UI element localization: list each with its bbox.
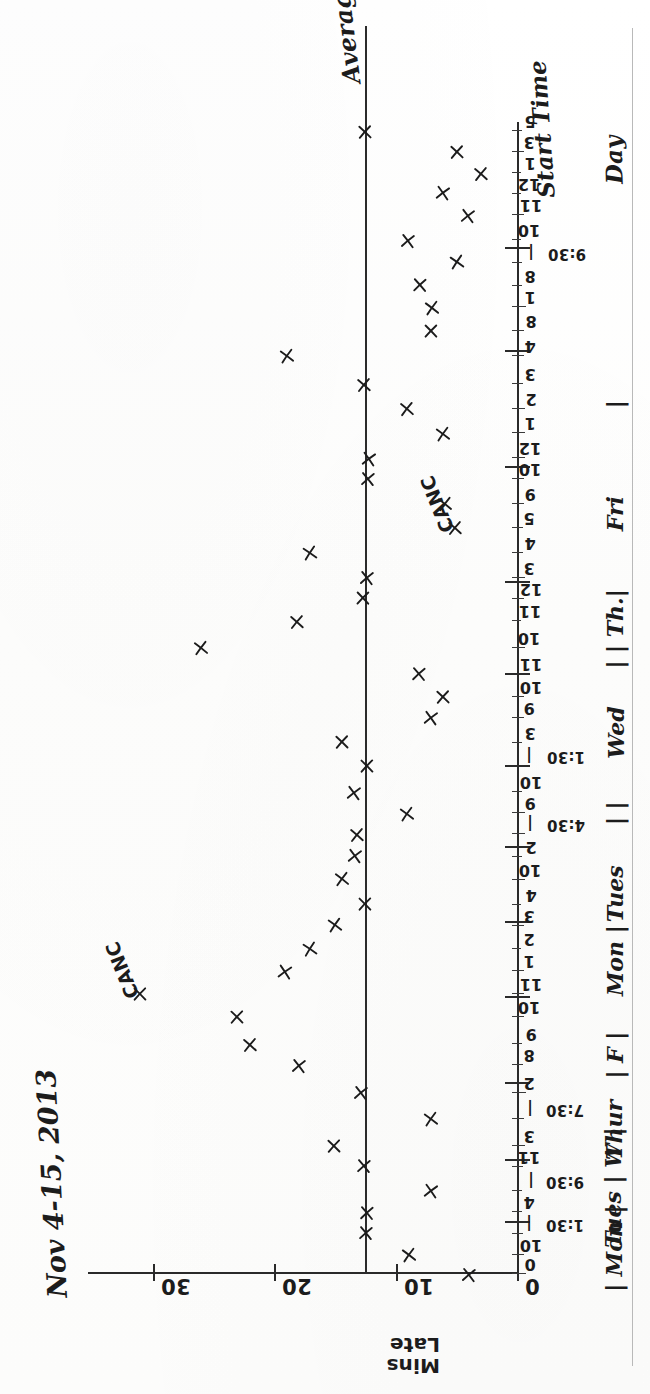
x-tick-label: 9 [525,485,536,504]
x-tick-label: 10 [517,998,540,1017]
x-tick [512,833,525,834]
data-point [435,688,451,704]
x-tick-label: 2 [525,390,536,409]
data-point [448,252,467,271]
data-point [229,1009,245,1025]
day-label: | [602,400,628,408]
x-tick-label: 3 [523,907,534,926]
x-tick [512,408,525,409]
x-tick [512,172,521,173]
y-tick-label: 10 [404,1274,434,1298]
x-tick-label: 2 [523,930,534,949]
data-point [334,734,350,750]
data-point [276,962,295,981]
data-point [241,1036,258,1053]
day-label: Fri [602,496,628,531]
x-tick-label: 1 [524,288,535,307]
x-tick-label: 2 [524,1074,535,1093]
y-tick [153,1264,155,1281]
data-point [359,470,377,488]
data-point [410,666,427,683]
x-tick [512,262,522,263]
x-tick-label: 10 [519,773,542,792]
data-point [398,400,415,417]
x-tick-label: 11 [519,196,542,215]
x-tick [512,742,522,743]
x-tick [512,130,522,131]
x-tick-label: 4 [525,886,536,905]
x-tick-label: 8 [525,312,536,331]
x-tick [512,527,523,528]
x-tick [512,355,524,356]
data-point [333,870,351,888]
data-point [358,1224,375,1241]
x-tick-label: 3 [523,1127,534,1146]
x-tick-label: 10 [519,861,542,880]
data-point [398,805,416,823]
x-tick-label: 10 [518,629,541,648]
x-tick-label: 4 [524,534,535,553]
x-tick-label: | [527,1100,533,1119]
chart-canvas: Nov 4-15, 2013 Mins Late 3020100 Average… [0,0,650,1394]
x-tick-label: 12 [520,580,543,599]
x-tick-label: 11 [519,603,542,622]
x-tick-label: | [526,1215,532,1234]
data-point [359,758,375,774]
data-point [356,376,373,393]
data-point [300,544,319,563]
x-tick-label: 11 [519,975,542,994]
x-time-label: 1:30 [546,1216,584,1234]
data-point [473,165,490,182]
data-point [345,847,363,865]
cancellation-label: CANC [100,939,143,1002]
x-tick-label: 0 [524,1255,535,1274]
data-point [355,590,371,606]
x-tick [512,1118,524,1119]
x-tick [512,285,522,286]
data-point [422,1110,440,1128]
day-separator [505,247,530,249]
x-tick-label: 10 [520,1236,543,1255]
x-tick-label: 10 [520,678,543,697]
x-tick-label: 12 [518,439,541,458]
data-point [459,207,477,225]
x-tick-label: 9 [525,1025,536,1044]
x-tick [512,812,525,813]
y-tick [274,1264,276,1281]
x-tick-label: 4 [523,1193,534,1212]
y-tick-label: 30 [161,1274,191,1298]
data-point [411,277,428,294]
x-tick [512,151,524,152]
x-time-label: 9:30 [548,245,586,263]
x-tick-label: 10 [518,460,541,479]
data-point [423,323,439,339]
x-tick [512,383,523,384]
x-tick-label: | [528,244,534,263]
data-point [289,613,306,630]
x-tick-label: 1 [525,414,536,433]
day-label: Tues [602,865,628,922]
x-tick-label: 9 [524,794,535,813]
y-axis-label-line2: Late [390,1333,440,1357]
day-label: | F | [602,1032,628,1079]
data-point [345,784,363,802]
x-tick [512,856,522,857]
x-tick [512,432,525,433]
x-tick-label: | [526,747,532,766]
x-tick [512,330,524,331]
x-tick [512,1211,522,1212]
y-tick-label: 0 [525,1274,540,1298]
x-tick-label: 11 [520,655,543,674]
data-point [192,639,210,657]
x-tick-label: 8 [524,267,535,286]
x-tick-label: 9 [523,699,534,718]
x-time-label: 7:30 [546,1101,584,1119]
data-point [434,425,452,443]
x-tick-label: | [527,815,533,834]
y-tick-label: 20 [282,1274,312,1298]
x-time-label: 4:30 [547,816,585,834]
x-tick [512,948,521,949]
x-tick [512,1043,522,1044]
data-point [301,939,320,958]
data-point [423,299,441,317]
